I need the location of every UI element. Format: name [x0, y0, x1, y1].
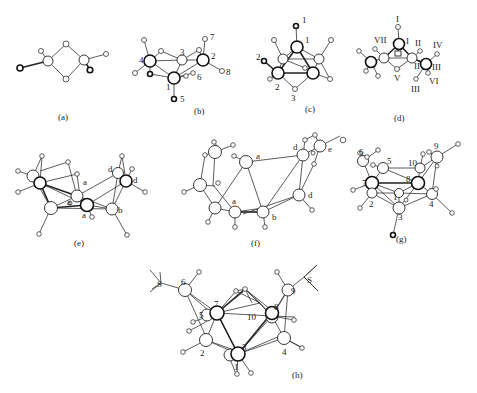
label-c3: 3: [291, 93, 296, 103]
label-d-I-top: I: [396, 14, 399, 24]
caption-e: (e): [74, 238, 84, 248]
label-h10: 10: [247, 312, 257, 322]
label-g9: 9: [434, 141, 439, 151]
molecular-structures-figure: (a) 1 2 3 4: [0, 0, 477, 393]
label-g5: 5: [387, 156, 392, 166]
label-h-S1: S: [157, 279, 162, 289]
label-h3: 3: [242, 342, 247, 352]
label-h7: 7: [214, 299, 219, 309]
label-g6: 6: [359, 147, 364, 157]
caption-a: (a): [58, 112, 68, 122]
label-b2: 2: [211, 51, 216, 61]
label-f-d1: d: [293, 142, 298, 152]
label-d-IV: IV: [433, 40, 443, 50]
caption-d: (d): [394, 113, 405, 123]
label-f-e: e: [328, 144, 332, 154]
label-g10: 10: [408, 158, 418, 168]
panel-c: 1 1 2 2 3 (c): [256, 15, 334, 114]
label-d-III-lower: III: [411, 84, 420, 94]
label-g1: 1: [393, 192, 398, 202]
label-b6: 6: [197, 72, 202, 82]
panel-e: a a a b d d (e): [16, 154, 148, 248]
panel-b: 1 2 3 4 5 6 7 8 (b): [133, 32, 232, 116]
label-d-I: I: [406, 36, 409, 46]
label-d-II-upper: II: [415, 38, 421, 48]
label-d-III: III: [432, 62, 441, 72]
label-c2: 2: [275, 82, 280, 92]
label-b5: 5: [180, 94, 185, 104]
label-c2-left: 2: [256, 52, 261, 62]
label-h-S2: S: [307, 275, 312, 285]
label-g4: 4: [429, 199, 434, 209]
label-g2: 2: [369, 199, 374, 209]
label-e-a2: a: [67, 197, 71, 207]
label-g8: 8: [406, 174, 411, 184]
label-f-b: b: [272, 212, 277, 222]
label-b3: 3: [180, 47, 185, 57]
label-f-d2: d: [308, 190, 313, 200]
label-e-a1: a: [83, 177, 87, 187]
panel-d: I I VII II II IV III III V VI (d): [357, 14, 443, 123]
label-h1: 1: [234, 362, 239, 372]
label-c1-top: 1: [302, 15, 307, 25]
label-h2: 2: [200, 348, 205, 358]
label-g7: 7: [362, 178, 367, 188]
label-f-a2: a: [232, 196, 236, 206]
caption-g: (g): [396, 234, 407, 244]
label-h6: 6: [181, 277, 186, 287]
panel-g: 1 2 3 4 5 6 7 8 9 10 (g): [340, 137, 460, 244]
label-d-II: II: [414, 61, 420, 71]
panel-h: 1 2 3 4 5 6 7 8 9 10 S S (h): [150, 265, 318, 380]
label-h8: 8: [274, 302, 279, 312]
label-g3: 3: [398, 212, 403, 222]
label-c1: 1: [305, 35, 310, 45]
label-h4: 4: [282, 347, 287, 357]
label-d-VII: VII: [374, 35, 387, 45]
label-f-a1: a: [256, 151, 260, 161]
label-e-d1: d: [108, 164, 113, 174]
label-b7: 7: [210, 32, 215, 42]
label-h5: 5: [199, 310, 204, 320]
label-b4: 4: [139, 55, 144, 65]
panel-f: a a b d d e (f): [182, 133, 340, 248]
label-d-VI: VI: [429, 76, 439, 86]
label-e-b: b: [118, 205, 123, 215]
caption-b: (b): [194, 106, 205, 116]
label-b1: 1: [166, 82, 171, 92]
label-e-d2: d: [133, 175, 138, 185]
caption-f: (f): [251, 238, 260, 248]
panel-a: (a): [17, 41, 109, 122]
label-b8: 8: [226, 67, 231, 77]
label-d-V: V: [394, 73, 401, 83]
label-h9: 9: [291, 286, 296, 296]
caption-h: (h): [292, 370, 303, 380]
label-e-a3: a: [82, 210, 86, 220]
caption-c: (c): [305, 104, 315, 114]
